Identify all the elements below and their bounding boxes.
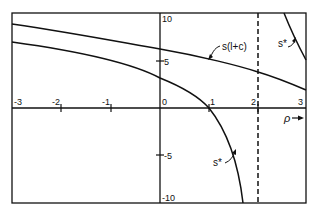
y-tick-label: 10: [162, 14, 172, 24]
x-tick-label: -3: [14, 97, 22, 107]
curve-s-1-plus-c: [12, 24, 306, 90]
y-tick-label: 5: [164, 57, 169, 67]
x-tick-label: 0: [162, 97, 167, 107]
x-tick-label: -2: [52, 97, 60, 107]
chart: -3 -2 -1 0 1 2 3 10 5 -5 -10 s(l+c) s* s…: [0, 0, 314, 214]
x-axis-label: ρ: [283, 112, 290, 124]
arrow-right-icon: [298, 116, 304, 121]
x-tick-label: 3: [298, 97, 303, 107]
y-tick-label: -10: [162, 193, 175, 203]
curve-label-s-star-left: s*: [213, 157, 222, 168]
curve-label-s-1-plus-c: s(l+c): [222, 41, 247, 52]
x-tick-label: 2: [251, 97, 256, 107]
arrowhead-icon: [292, 37, 296, 43]
curve-s-star-right: [284, 13, 306, 60]
x-tick-label: 1: [210, 97, 215, 107]
curve-label-s-star-right: s*: [278, 38, 287, 49]
curve-s-star-left: [12, 42, 243, 203]
y-tick-label: -5: [164, 151, 172, 161]
x-tick-label: -1: [102, 97, 110, 107]
